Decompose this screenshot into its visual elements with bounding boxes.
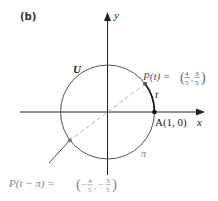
p-t-y-den: 5 [195,79,199,87]
unit-circle-diagram: (b) x y U t π A(1, 0) P(t) = ( 4 5 , 3 5… [0,0,218,201]
point-p-t [143,82,147,86]
leader-line [49,140,70,163]
svg-text:): ) [112,176,117,193]
svg-text:,: , [94,182,96,191]
point-p-t-minus-pi-label: P(t − π) = ( − 4 5 , − 3 5 ) [8,176,117,194]
x-axis-label: x [196,116,202,128]
panel-label: (b) [20,11,36,22]
p-t-x-den: 5 [185,79,189,87]
arc-label-pi: π [141,148,147,159]
point-a [152,110,157,115]
p-t-minus-pi-x-num: 4 [88,177,92,185]
p-t-minus-pi-y-sign: − [98,179,103,189]
p-t-minus-pi-y-num: 3 [106,177,110,185]
p-t-prefix: P(t) = [142,70,170,83]
y-axis: y [104,9,119,175]
arc-t [145,84,154,112]
y-axis-label: y [113,9,119,21]
y-axis-arrow-icon [104,12,111,21]
circle-label-u: U [73,63,82,75]
point-p-t-label: P(t) = ( 4 5 , 3 5 ) [142,70,206,87]
svg-text:): ) [201,70,206,86]
point-p-t-minus-pi [68,138,72,142]
p-t-y-num: 3 [195,70,199,78]
x-axis-arrow-icon [196,109,205,116]
arc-label-t: t [155,88,159,100]
p-t-minus-pi-x-den: 5 [88,186,92,194]
p-t-minus-pi-prefix: P(t − π) = [8,177,55,190]
p-t-minus-pi-y-den: 5 [106,186,110,194]
point-a-label: A(1, 0) [155,116,187,129]
p-t-x-num: 4 [185,70,189,78]
p-t-minus-pi-x-sign: − [81,179,86,189]
svg-text:,: , [191,74,193,83]
